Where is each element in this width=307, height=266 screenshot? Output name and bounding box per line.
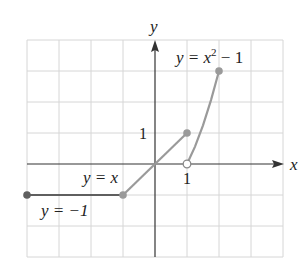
series-parabola (183, 67, 223, 168)
closed-endpoint (23, 191, 31, 199)
parabola-equation-label: y = x2 − 1 (174, 46, 243, 67)
x-tick-1: 1 (183, 170, 191, 187)
axes (27, 40, 284, 257)
const-equation-label: y = −1 (39, 201, 89, 220)
series-const (23, 191, 123, 199)
parabola-eq-base: y = x (174, 48, 212, 67)
y-tick-1: 1 (139, 125, 147, 142)
open-endpoint (183, 160, 191, 168)
closed-endpoint (183, 129, 191, 137)
y-axis-label: y (148, 17, 158, 36)
parabola-eq-tail: − 1 (217, 48, 244, 67)
closed-endpoint (119, 191, 127, 199)
piecewise-function-graph: y x 1 1 y = x2 − 1 y = x y = −1 (0, 0, 307, 266)
closed-endpoint (215, 67, 223, 75)
x-axis-label: x (289, 155, 298, 174)
line-equation-label: y = x (81, 168, 119, 187)
